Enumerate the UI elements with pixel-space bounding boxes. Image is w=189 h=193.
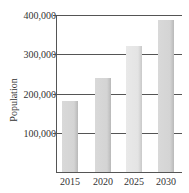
gridline-400000 xyxy=(56,15,182,16)
population-bar-chart: Population 400,000 300,000 200,000 100,0… xyxy=(0,0,189,193)
y-tick-label-200000: 200,000 xyxy=(24,89,57,100)
x-tick-label-2030: 2030 xyxy=(151,176,181,187)
y-axis-line xyxy=(56,15,57,173)
x-tick-label-2025: 2025 xyxy=(119,176,149,187)
bar-2020 xyxy=(95,78,111,172)
y-tick-label-100000: 100,000 xyxy=(24,128,57,139)
x-tick-label-2020: 2020 xyxy=(88,176,118,187)
bar-2025 xyxy=(126,46,142,172)
x-axis-line xyxy=(56,172,182,173)
y-tick-label-400000: 400,000 xyxy=(24,10,57,21)
x-tick-label-2015: 2015 xyxy=(55,176,85,187)
y-axis-label: Population xyxy=(8,78,19,121)
bar-2015 xyxy=(62,101,78,172)
bar-2030 xyxy=(158,20,174,172)
y-tick-label-300000: 300,000 xyxy=(24,49,57,60)
